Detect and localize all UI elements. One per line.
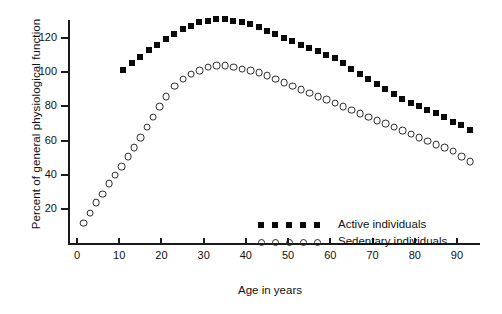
- data-point: [156, 103, 164, 111]
- data-point: [93, 199, 101, 207]
- data-point: [449, 147, 457, 155]
- data-point: [340, 103, 348, 111]
- data-point: [154, 42, 160, 48]
- data-point: [188, 23, 194, 29]
- data-point: [162, 93, 170, 101]
- data-point: [289, 38, 295, 44]
- x-tick-20: [160, 238, 162, 244]
- data-point: [272, 75, 280, 83]
- legend-key-circle: [300, 239, 307, 246]
- data-point: [315, 48, 321, 54]
- x-tick-label-20: 20: [146, 250, 176, 261]
- legend-keys-sedentary: [258, 233, 330, 250]
- data-point: [356, 110, 364, 118]
- data-point: [408, 100, 414, 106]
- legend-key-square: [300, 222, 306, 228]
- data-point: [188, 70, 196, 78]
- data-point: [374, 81, 380, 87]
- data-point: [205, 18, 211, 24]
- x-tick-10: [118, 238, 120, 244]
- data-point: [373, 117, 381, 125]
- x-tick-90: [456, 238, 458, 244]
- legend-key-circle: [258, 239, 265, 246]
- x-tick-label-30: 30: [189, 250, 219, 261]
- y-tick-60: [61, 140, 68, 142]
- data-point: [365, 76, 371, 82]
- data-point: [390, 123, 398, 131]
- x-tick-label-80: 80: [400, 250, 430, 261]
- legend-key-square: [258, 222, 264, 228]
- data-point: [196, 19, 202, 25]
- data-point: [247, 21, 253, 27]
- data-point: [180, 26, 186, 32]
- data-point: [222, 16, 228, 22]
- data-point: [112, 171, 120, 179]
- data-point: [391, 91, 397, 97]
- data-point: [124, 153, 132, 161]
- x-tick-label-90: 90: [442, 250, 472, 261]
- data-point: [306, 89, 314, 97]
- data-point: [264, 28, 270, 34]
- data-point: [204, 63, 212, 71]
- data-point: [382, 86, 388, 92]
- data-point: [348, 66, 354, 72]
- data-point: [99, 190, 107, 198]
- data-point: [120, 67, 126, 73]
- x-tick-label-40: 40: [231, 250, 261, 261]
- y-axis-title: Percent of general physiological functio…: [30, 4, 42, 244]
- x-tick-label-0: 0: [62, 250, 92, 261]
- data-point: [424, 107, 430, 113]
- data-point: [146, 47, 152, 53]
- data-point: [280, 79, 288, 87]
- data-point: [357, 71, 363, 77]
- data-point: [238, 65, 246, 73]
- data-point: [340, 60, 346, 66]
- data-point: [407, 130, 415, 138]
- y-axis-line: [68, 20, 70, 244]
- data-point: [323, 52, 329, 58]
- data-point: [247, 67, 255, 75]
- data-point: [171, 82, 179, 90]
- data-point: [213, 62, 221, 70]
- data-point: [332, 55, 338, 61]
- data-point: [143, 123, 151, 131]
- data-point: [433, 110, 439, 116]
- data-point: [129, 60, 135, 66]
- data-point: [432, 141, 440, 149]
- x-tick-label-10: 10: [104, 250, 134, 261]
- y-tick-80: [61, 105, 68, 107]
- data-point: [221, 62, 229, 70]
- data-point: [450, 119, 456, 125]
- legend-key-circle: [314, 239, 321, 246]
- data-point: [163, 36, 169, 42]
- data-point: [80, 220, 88, 228]
- y-tick-40: [61, 174, 68, 176]
- data-point: [137, 54, 143, 60]
- data-point: [348, 106, 356, 114]
- legend-key-square: [286, 222, 292, 228]
- data-point: [466, 158, 474, 166]
- y-tick-100: [61, 71, 68, 73]
- data-point: [230, 63, 238, 71]
- y-tick-120: [61, 37, 68, 39]
- data-point: [331, 99, 339, 107]
- data-point: [281, 35, 287, 41]
- legend-keys-active: [258, 216, 330, 233]
- x-axis-title: Age in years: [140, 284, 400, 296]
- data-point: [458, 153, 466, 161]
- data-point: [306, 45, 312, 51]
- data-point: [323, 96, 331, 104]
- data-point: [399, 127, 407, 135]
- legend-key-circle: [286, 239, 293, 246]
- data-point: [424, 137, 432, 145]
- data-point: [137, 134, 145, 142]
- data-point: [171, 31, 177, 37]
- y-tick-20: [61, 208, 68, 210]
- data-point: [458, 122, 464, 128]
- data-point: [272, 31, 278, 37]
- data-point: [230, 18, 236, 24]
- data-point: [118, 163, 126, 171]
- data-point: [131, 144, 139, 152]
- legend-label-sedentary: Sedentary individuals: [338, 234, 447, 249]
- data-point: [416, 103, 422, 109]
